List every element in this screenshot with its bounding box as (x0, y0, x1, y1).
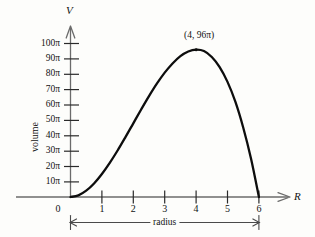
x-tick-label-6: 6 (256, 204, 261, 214)
y-tick-label-70pi: 70π (20, 85, 60, 95)
y-tick-label-80pi: 80π (20, 70, 60, 80)
peak-annotation-label: (4, 96π) (184, 31, 214, 41)
y-tick-label-40pi: 40π (20, 131, 60, 141)
x-axis-caption: radius (150, 218, 179, 228)
y-tick-label-60pi: 60π (20, 100, 60, 110)
y-tick-label-90pi: 90π (20, 54, 60, 64)
x-tick-label-5: 5 (225, 204, 230, 214)
chart-figure: V R volume 100π 90π 80π 70π 60π 50π 40π … (0, 0, 315, 237)
x-axis-symbol-label: R (294, 191, 301, 202)
y-tick-label-50pi: 50π (20, 116, 60, 126)
x-tick-label-1: 1 (99, 204, 104, 214)
y-axis-ticks (64, 44, 79, 182)
x-tick-label-2: 2 (131, 204, 136, 214)
y-tick-label-100pi: 100π (20, 39, 60, 49)
y-tick-label-30pi: 30π (20, 146, 60, 156)
y-tick-label-10pi: 10π (20, 177, 60, 187)
y-axis-symbol-label: V (66, 5, 73, 16)
volume-curve (71, 50, 259, 197)
x-tick-label-3: 3 (162, 204, 167, 214)
x-tick-label-4: 4 (194, 204, 199, 214)
x-tick-label-0: 0 (56, 204, 61, 214)
y-tick-label-20pi: 20π (20, 162, 60, 172)
peak-point-marker (195, 48, 198, 51)
